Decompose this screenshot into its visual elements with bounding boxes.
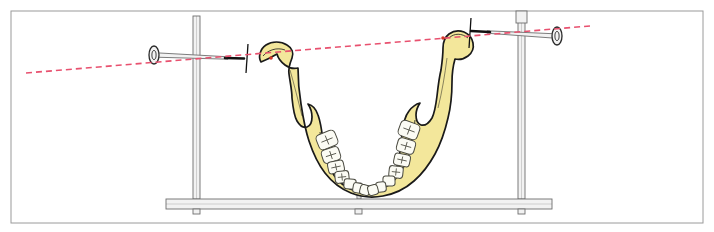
post-collar-right (516, 11, 527, 23)
pointer-head-right[interactable] (552, 27, 562, 45)
condyle-marker-right (441, 36, 445, 40)
stand-foot-left (193, 209, 200, 214)
anatomy-figure-canvas (0, 0, 714, 232)
figure-root (0, 0, 714, 232)
tooth-right-7 (367, 184, 379, 196)
stand-foot-center (355, 209, 362, 214)
stand-foot-right (518, 209, 525, 214)
tooth-right-7-crown (367, 184, 379, 196)
pointer-tip-left[interactable] (225, 58, 244, 59)
condyle-marker-left (269, 56, 273, 60)
pointer-tip-right[interactable] (471, 31, 490, 32)
tooth-right-3 (393, 152, 411, 167)
